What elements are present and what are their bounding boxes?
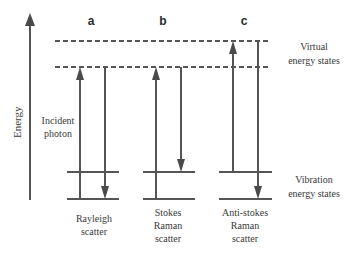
stokes-transition — [152, 67, 185, 199]
caption-c-line3: scatter — [232, 233, 259, 244]
axis-arrow-icon — [25, 13, 35, 26]
up-arrow-icon — [76, 67, 84, 80]
down-arrow-icon — [177, 159, 185, 172]
column-label-a: a — [88, 14, 95, 28]
caption-c-line2: Raman — [231, 220, 259, 231]
vibration-label-line2: energy states — [288, 188, 340, 199]
incident-label-line1: Incident — [42, 115, 75, 126]
raman-scattering-diagram: Energy a b c Incident photon — [0, 0, 358, 256]
virtual-label-line1: Virtual — [300, 41, 328, 52]
down-arrow-icon — [254, 186, 262, 199]
virtual-states — [55, 41, 271, 67]
vibration-states — [67, 172, 272, 199]
incident-label-line2: photon — [44, 128, 72, 139]
caption-b-line1: Stokes — [155, 207, 182, 218]
caption-c-line1: Anti-stokes — [222, 207, 268, 218]
axis-label: Energy — [11, 106, 23, 138]
up-arrow-icon — [152, 67, 160, 80]
caption-a-line1: Rayleigh — [76, 213, 112, 224]
energy-axis: Energy — [11, 13, 35, 200]
caption-a-line2: scatter — [81, 226, 108, 237]
down-arrow-icon — [101, 186, 109, 199]
vibration-label-line1: Vibration — [295, 174, 333, 185]
anti-stokes-transition — [229, 41, 262, 199]
caption-b-line3: scatter — [155, 233, 182, 244]
virtual-label-line2: energy states — [288, 55, 340, 66]
column-label-b: b — [159, 14, 166, 28]
rayleigh-transition — [76, 67, 109, 199]
column-label-c: c — [241, 14, 248, 28]
caption-b-line2: Raman — [154, 220, 182, 231]
up-arrow-icon — [229, 41, 237, 54]
